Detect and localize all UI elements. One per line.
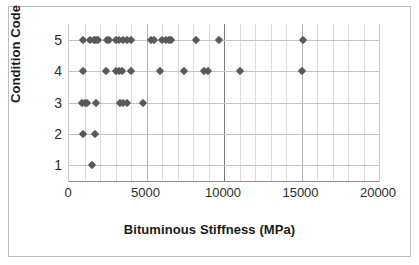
data-point: [94, 35, 102, 43]
data-point: [298, 67, 306, 75]
x-axis-title: Bituminous Stiffness (MPa): [0, 222, 419, 237]
y-axis-title: Condition Code: [8, 5, 23, 103]
data-point: [127, 67, 135, 75]
data-point: [180, 67, 188, 75]
data-point: [235, 67, 243, 75]
y-tick-label: 4: [36, 64, 62, 78]
y-tick-label: 1: [36, 158, 62, 172]
x-tick-label: 5000: [131, 186, 160, 199]
data-point: [299, 35, 307, 43]
data-point: [102, 67, 110, 75]
x-tick-label: 10000: [205, 186, 241, 199]
y-gridline: [69, 165, 379, 166]
y-axis-tick-labels: 12345: [32, 24, 62, 182]
data-point: [79, 130, 87, 138]
data-point: [88, 161, 96, 169]
x-axis-tick-labels: 05000100001500020000: [68, 186, 380, 206]
y-tick-label: 2: [36, 127, 62, 141]
y-gridline: [69, 134, 379, 135]
x-tick-label: 20000: [360, 186, 396, 199]
plot-area: [68, 24, 380, 182]
data-point: [91, 130, 99, 138]
y-tick-label: 3: [36, 96, 62, 110]
data-point: [215, 35, 223, 43]
x-tick-label: 0: [64, 186, 71, 199]
y-tick-label: 5: [36, 33, 62, 47]
data-point: [156, 67, 164, 75]
x-tick-label: 15000: [282, 186, 318, 199]
chart-figure: Condition Code 12345 0500010000150002000…: [0, 0, 419, 265]
data-point: [79, 67, 87, 75]
